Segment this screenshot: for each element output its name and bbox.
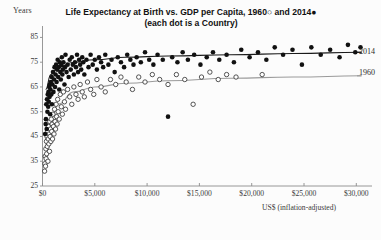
data-point-1960: [119, 75, 123, 79]
data-point-2014: [61, 60, 66, 65]
series-label-1960: 1960: [359, 68, 375, 77]
data-point-1960: [55, 122, 59, 126]
data-point-2014: [106, 62, 111, 67]
data-point-2014: [69, 55, 74, 60]
data-point-2014: [112, 70, 117, 75]
data-point-2014: [43, 122, 48, 127]
data-point-2014: [290, 48, 295, 53]
data-point-2014: [147, 57, 152, 62]
data-point-2014: [143, 50, 148, 55]
data-point-1960: [166, 82, 170, 86]
data-point-2014: [232, 60, 237, 65]
data-point-2014: [166, 114, 171, 119]
data-point-2014: [51, 90, 56, 95]
data-point-2014: [346, 43, 351, 48]
data-point-2014: [281, 52, 286, 57]
data-point-1960: [72, 85, 76, 89]
data-point-1960: [46, 159, 50, 163]
data-point-2014: [95, 67, 100, 72]
x-tick-label: $15,000: [171, 189, 227, 198]
x-tick-label: $5,000: [67, 189, 123, 198]
data-point-2014: [44, 127, 49, 132]
data-point-2014: [224, 52, 229, 57]
data-point-1960: [42, 169, 46, 173]
data-point-2014: [109, 57, 114, 62]
data-point-1960: [68, 95, 72, 99]
data-point-2014: [160, 57, 165, 62]
data-point-1960: [143, 80, 147, 84]
data-point-2014: [211, 50, 216, 55]
data-point-2014: [66, 75, 71, 80]
data-point-2014: [155, 52, 160, 57]
data-point-1960: [108, 77, 112, 81]
y-tick-label: 85: [18, 32, 38, 41]
data-point-2014: [256, 50, 261, 55]
x-tick-label: $30,000: [328, 189, 381, 198]
data-point-2014: [272, 45, 277, 50]
data-point-1960: [174, 72, 178, 76]
data-point-2014: [239, 48, 244, 53]
data-point-2014: [97, 55, 102, 60]
data-point-2014: [82, 72, 87, 77]
data-point-2014: [247, 55, 252, 60]
data-point-2014: [103, 52, 108, 57]
data-point-1960: [208, 70, 212, 74]
data-point-2014: [63, 52, 68, 57]
data-point-1960: [95, 77, 99, 81]
data-point-2014: [328, 48, 333, 53]
data-point-1960: [124, 80, 128, 84]
data-point-2014: [86, 65, 91, 70]
data-point-2014: [170, 55, 175, 60]
data-point-2014: [59, 77, 64, 82]
data-point-1960: [43, 164, 47, 168]
data-point-2014: [53, 85, 58, 90]
data-point-2014: [119, 60, 124, 65]
data-point-1960: [63, 107, 67, 111]
data-point-1960: [54, 102, 58, 106]
trendline-2014: [46, 52, 362, 89]
data-point-1960: [137, 75, 141, 79]
data-point-2014: [73, 60, 78, 65]
data-point-2014: [44, 117, 49, 122]
data-point-2014: [337, 55, 342, 60]
data-point-2014: [80, 55, 85, 60]
data-point-1960: [55, 97, 59, 101]
x-axis-title: US$ (inflation-adjusted): [262, 203, 336, 212]
data-point-1960: [53, 127, 57, 131]
data-point-1960: [260, 72, 264, 76]
data-point-2014: [84, 57, 89, 62]
axes-layer: [40, 26, 372, 186]
data-point-2014: [122, 65, 127, 70]
data-point-1960: [150, 72, 154, 76]
data-point-2014: [57, 87, 62, 92]
data-point-1960: [224, 72, 228, 76]
data-point-2014: [186, 57, 191, 62]
x-tick-label: $20,000: [224, 189, 280, 198]
data-point-1960: [56, 110, 60, 114]
data-point-2014: [134, 55, 139, 60]
data-point-1960: [74, 92, 78, 96]
data-point-1960: [85, 80, 89, 84]
data-point-2014: [192, 52, 197, 57]
data-point-2014: [151, 62, 156, 67]
data-point-2014: [125, 52, 130, 57]
data-point-1960: [88, 87, 92, 91]
data-point-1960: [199, 75, 203, 79]
data-point-2014: [64, 70, 69, 75]
data-point-1960: [57, 117, 61, 121]
data-point-1960: [234, 75, 238, 79]
data-point-1960: [216, 77, 220, 81]
data-point-2014: [198, 62, 203, 67]
data-point-2014: [50, 102, 55, 107]
data-point-2014: [43, 132, 48, 137]
data-point-2014: [46, 104, 51, 109]
data-point-2014: [264, 57, 269, 62]
data-point-1960: [61, 90, 65, 94]
data-point-1960: [99, 85, 103, 89]
data-point-1960: [70, 102, 74, 106]
data-point-2014: [217, 57, 222, 62]
data-point-2014: [79, 67, 84, 72]
data-point-2014: [180, 50, 185, 55]
data-point-2014: [54, 80, 59, 85]
data-point-2014: [62, 82, 67, 87]
